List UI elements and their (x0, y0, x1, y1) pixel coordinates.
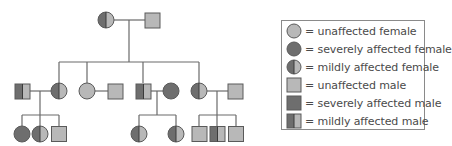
legend-label: = severely affected female (305, 43, 452, 56)
individual-II-3-unaffected-female (79, 83, 95, 99)
individual-II-2-mild-female (51, 83, 67, 99)
individual-III-6-unaffected-male (192, 127, 207, 142)
connector-lines (22, 20, 236, 126)
legend-label: = mildly affected male (305, 115, 429, 128)
legend-item-mild-female: = mildly affected female (286, 59, 439, 75)
individual-III-8-unaffected-male (229, 127, 244, 142)
individual-I-1-mild-female (98, 12, 114, 28)
legend-item-severe-male: = severely affected male (286, 95, 441, 111)
legend-label: = mildly affected female (305, 61, 439, 74)
individual-II-1-mild-male (15, 84, 30, 99)
individual-III-2-mild-female (32, 126, 48, 142)
pedigree-chart (0, 0, 280, 146)
individual-II-5-mild-male (136, 84, 151, 99)
legend-item-unaffected-male: = unaffected male (286, 77, 406, 93)
legend-item-unaffected-female: = unaffected female (286, 23, 417, 39)
individual-III-7-mild-male (210, 127, 225, 142)
individual-III-4-mild-female (131, 126, 147, 142)
legend-label: = unaffected male (305, 79, 406, 92)
individual-II-4-unaffected-male (108, 84, 123, 99)
severe-male-icon (286, 95, 302, 111)
unaffected-male-icon (286, 77, 302, 93)
individual-III-5-mild-female (168, 126, 184, 142)
individual-II-7-mild-female (191, 83, 207, 99)
mild-female-icon (286, 59, 302, 75)
legend: = unaffected female = severely affected … (281, 20, 425, 130)
legend-item-severe-female: = severely affected female (286, 41, 452, 57)
individual-II-8-unaffected-male (228, 84, 243, 99)
unaffected-female-icon (286, 23, 302, 39)
individual-III-3-unaffected-male (52, 127, 67, 142)
legend-label: = unaffected female (305, 25, 417, 38)
individual-I-2-unaffected-male (145, 13, 160, 28)
individual-III-1-severe-female (14, 126, 30, 142)
legend-item-mild-male: = mildly affected male (286, 113, 429, 129)
legend-label: = severely affected male (305, 97, 441, 110)
severe-female-icon (286, 41, 302, 57)
individual-II-6-severe-female (163, 83, 179, 99)
mild-male-icon (286, 113, 302, 129)
